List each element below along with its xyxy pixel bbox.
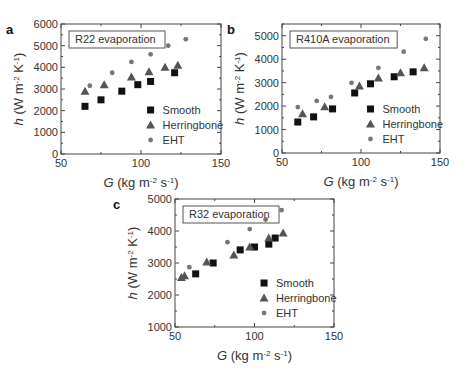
- legend-label: Smooth: [163, 104, 201, 116]
- y-tick-label: 5000: [148, 193, 172, 205]
- data-point-eht: [183, 37, 188, 42]
- data-point-legend-herringbone: [146, 121, 155, 129]
- legend-label: Smooth: [382, 103, 420, 115]
- legend-label: Herringbone: [276, 292, 337, 304]
- data-point-legend-smooth: [367, 106, 374, 113]
- data-point-legend-eht: [262, 311, 267, 316]
- legend: SmoothHerringboneEHT: [146, 104, 223, 146]
- y-tick-label: 5000: [34, 40, 58, 52]
- data-point-herringbone: [173, 61, 182, 69]
- data-point-smooth: [310, 113, 317, 120]
- data-point-eht: [279, 208, 284, 213]
- chart-panel-a: 501001500100020003000400050006000aG (kg …: [6, 18, 230, 190]
- data-point-eht: [423, 36, 428, 41]
- x-axis-label: G (kg m-2 s-1): [217, 348, 292, 363]
- legend-label: Smooth: [276, 277, 314, 289]
- y-tick-label: 4000: [255, 53, 279, 65]
- x-tick-label: 150: [212, 157, 230, 169]
- y-tick-label: 4000: [34, 61, 58, 73]
- data-point-herringbone: [161, 63, 170, 71]
- x-tick-label: 150: [431, 156, 449, 168]
- data-point-smooth: [367, 80, 374, 87]
- data-point-smooth: [134, 81, 141, 88]
- y-tick-label: 3000: [34, 83, 58, 95]
- panel-label: c: [113, 197, 120, 212]
- data-point-eht: [401, 49, 406, 54]
- chart-figure: 501001500100020003000400050006000aG (kg …: [0, 0, 466, 373]
- chart-title: R22 evaporation: [75, 33, 156, 45]
- y-axis-label: h (W m-2 K-1): [125, 227, 140, 300]
- data-point-smooth: [265, 241, 272, 248]
- data-point-herringbone: [127, 73, 136, 81]
- data-point-eht: [295, 105, 300, 110]
- data-point-eht: [314, 99, 319, 104]
- data-point-eht: [263, 217, 268, 222]
- data-point-herringbone: [145, 67, 154, 75]
- data-point-smooth: [147, 78, 154, 85]
- legend-label: Herringbone: [382, 118, 443, 130]
- x-axis-label: G (kg m-2 s-1): [324, 174, 399, 189]
- y-tick-label: 3000: [148, 257, 172, 269]
- data-point-herringbone: [298, 109, 307, 117]
- data-point-legend-eht: [368, 137, 373, 142]
- legend-label: EHT: [276, 307, 298, 319]
- y-tick-label: 0: [52, 148, 58, 160]
- data-point-smooth: [329, 105, 336, 112]
- data-point-eht: [376, 65, 381, 70]
- data-point-eht: [349, 80, 354, 85]
- data-point-smooth: [391, 73, 398, 80]
- data-point-smooth: [410, 68, 417, 75]
- figure: 501001500100020003000400050006000aG (kg …: [0, 0, 466, 373]
- chart-title: R410A evaporation: [296, 33, 390, 45]
- data-point-herringbone: [374, 73, 383, 81]
- data-point-herringbone: [81, 87, 90, 95]
- panel-label: b: [227, 22, 235, 37]
- chart-title: R32 evaporation: [189, 208, 270, 220]
- y-tick-label: 1000: [255, 124, 279, 136]
- data-point-herringbone: [100, 80, 109, 88]
- legend: SmoothHerringboneEHT: [366, 103, 443, 145]
- y-tick-label: 1000: [148, 321, 172, 333]
- data-point-herringbone: [355, 81, 364, 89]
- data-point-smooth: [82, 103, 89, 110]
- data-point-eht: [187, 265, 192, 270]
- data-point-smooth: [294, 119, 301, 126]
- series-smooth: [294, 68, 416, 125]
- data-point-herringbone: [279, 228, 288, 236]
- data-point-legend-smooth: [261, 280, 268, 287]
- y-tick-label: 5000: [255, 30, 279, 42]
- data-point-smooth: [192, 270, 199, 277]
- data-point-eht: [148, 52, 153, 57]
- data-point-herringbone: [320, 102, 329, 110]
- data-point-eht: [87, 83, 92, 88]
- panel-label: a: [6, 22, 14, 37]
- x-tick-label: 100: [245, 330, 263, 342]
- y-tick-label: 0: [273, 147, 279, 159]
- x-tick-label: 150: [325, 330, 343, 342]
- chart-panel-c: 5010015010002000300040005000cG (kg m-2 s…: [113, 193, 343, 363]
- data-point-smooth: [272, 235, 279, 242]
- data-point-smooth: [237, 246, 244, 253]
- data-point-smooth: [98, 96, 105, 103]
- legend-label: Herringbone: [163, 119, 224, 131]
- data-point-legend-eht: [148, 138, 153, 143]
- data-point-eht: [110, 70, 115, 75]
- data-point-legend-herringbone: [260, 294, 269, 302]
- data-point-herringbone: [396, 68, 405, 76]
- y-tick-label: 2000: [255, 100, 279, 112]
- y-tick-label: 2000: [34, 105, 58, 117]
- data-point-smooth: [118, 88, 125, 95]
- y-axis-label: h (W m-2 K-1): [232, 52, 247, 125]
- data-point-eht: [225, 240, 230, 245]
- series-herringbone: [81, 61, 183, 95]
- data-point-smooth: [171, 69, 178, 76]
- x-tick-label: 100: [352, 156, 370, 168]
- data-point-legend-smooth: [147, 107, 154, 114]
- data-point-herringbone: [420, 63, 429, 71]
- legend-label: EHT: [382, 133, 404, 145]
- legend: SmoothHerringboneEHT: [260, 277, 337, 319]
- y-tick-label: 1000: [34, 126, 58, 138]
- data-point-smooth: [351, 89, 358, 96]
- data-point-eht: [329, 95, 334, 100]
- y-tick-label: 6000: [34, 18, 58, 30]
